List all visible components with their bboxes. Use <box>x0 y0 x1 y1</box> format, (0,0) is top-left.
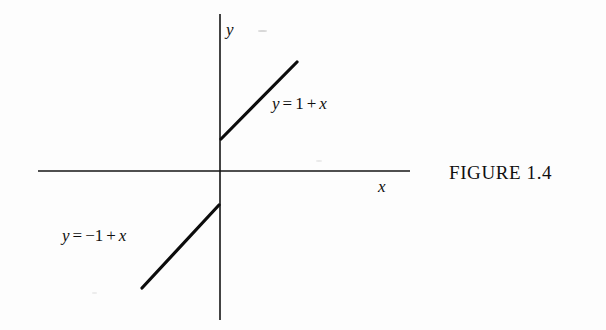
equation-upper-term1: 1 <box>295 94 304 113</box>
equation-lower-term2: x <box>119 226 127 245</box>
equation-label-upper: y=1+x <box>272 95 327 112</box>
equation-upper-term2: x <box>319 94 327 113</box>
figure-container: y x y=1+x y=−1+x FIGURE 1.4 <box>0 0 606 330</box>
figure-caption: FIGURE 1.4 <box>449 162 552 184</box>
equation-upper-lhs: y <box>272 94 280 113</box>
x-axis-label: x <box>378 178 386 195</box>
equation-label-lower: y=−1+x <box>62 227 126 244</box>
equation-lower-equals: = <box>70 226 86 245</box>
equation-upper-plus: + <box>304 94 320 113</box>
equation-upper-equals: = <box>280 94 296 113</box>
equation-lower-lhs: y <box>62 226 70 245</box>
scan-artifact-speck <box>316 160 322 162</box>
equation-lower-term1: −1 <box>85 226 103 245</box>
scan-artifact-speck <box>258 30 267 32</box>
scan-artifact-speck <box>92 292 97 294</box>
y-axis-label: y <box>226 21 234 38</box>
line-segment-y-equals-minus-1-plus-x <box>142 205 219 288</box>
equation-lower-plus: + <box>103 226 119 245</box>
